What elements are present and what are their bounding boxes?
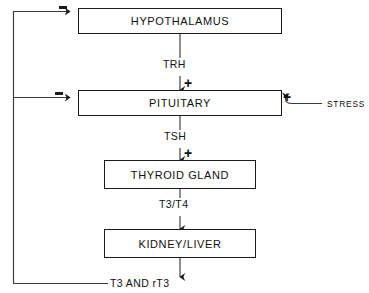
plus-sign-trh: + — [184, 76, 192, 90]
node-hypothalamus[interactable]: HYPOTHALAMUS — [78, 8, 282, 34]
feedback-loop-to-hypothalamus — [14, 12, 109, 284]
stress-input-label: STRESS — [327, 99, 365, 109]
plus-sign-stress: + — [283, 90, 291, 104]
edge-label-trh: TRH — [161, 58, 188, 70]
plus-sign-tsh: + — [184, 146, 192, 160]
node-kidney-liver[interactable]: KIDNEY/LIVER — [104, 229, 256, 258]
edge-label-t3-t4: T3/T4 — [157, 198, 190, 210]
minus-sign-feedback-hypothalamus — [59, 6, 67, 9]
node-thyroid-gland-label: THYROID GLAND — [131, 169, 229, 181]
edge-label-t3-and-rt3: T3 AND rT3 — [108, 277, 171, 289]
node-pituitary-label: PITUITARY — [149, 97, 211, 109]
node-hypothalamus-label: HYPOTHALAMUS — [131, 15, 229, 27]
edge-label-tsh: TSH — [162, 130, 188, 142]
minus-sign-feedback-pituitary — [55, 92, 63, 95]
thyroid-axis-diagram: HYPOTHALAMUS PITUITARY THYROID GLAND KID… — [0, 0, 369, 293]
node-kidney-liver-label: KIDNEY/LIVER — [138, 238, 221, 250]
node-thyroid-gland[interactable]: THYROID GLAND — [104, 160, 256, 189]
node-pituitary[interactable]: PITUITARY — [78, 90, 282, 116]
